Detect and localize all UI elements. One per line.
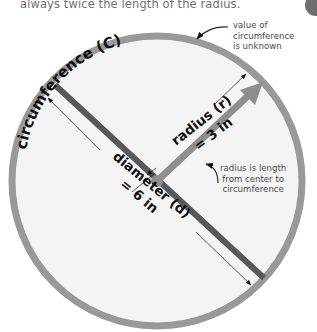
circumference-note: value of circumference is unknown	[233, 20, 294, 52]
radius-note: radius is length from center to circumfe…	[220, 163, 286, 195]
circumference-callout-arrow-icon	[197, 27, 228, 39]
